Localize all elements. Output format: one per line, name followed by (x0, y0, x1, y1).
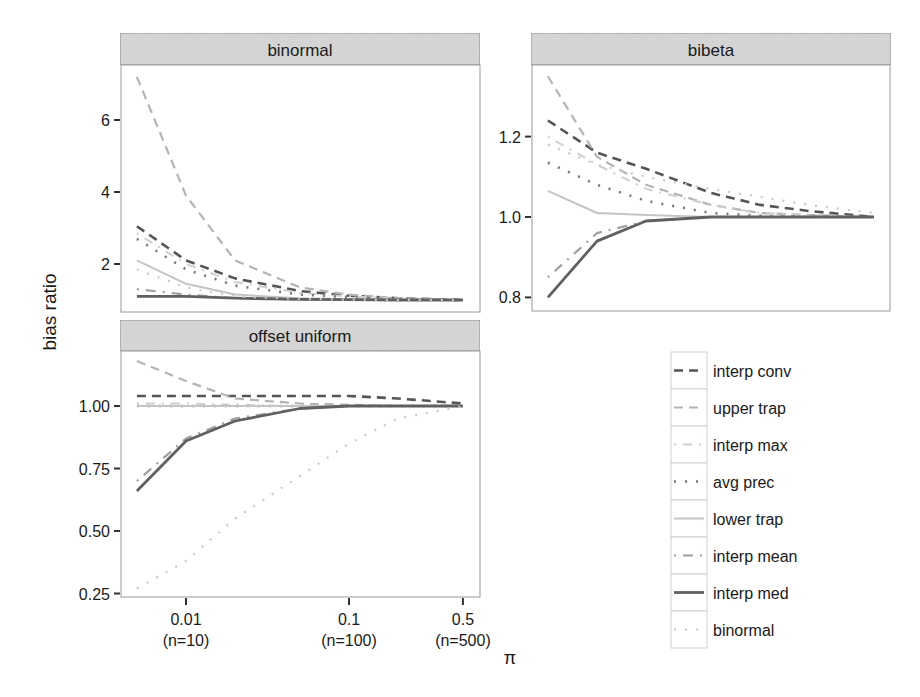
y-tick-label: 6 (101, 112, 110, 129)
x-tick-sublabel: (n=10) (163, 632, 210, 649)
y-tick-label: 0.75 (79, 461, 110, 478)
legend-label: interp max (713, 437, 788, 454)
legend-item-avg-prec: avg prec (671, 463, 774, 500)
y-axis-title: bias ratio (39, 273, 60, 350)
legend-key-box (671, 611, 707, 648)
legend-item-interp-max: interp max (671, 426, 788, 463)
y-axis-bibeta: 0.81.01.2 (499, 129, 531, 307)
y-tick-label: 0.25 (79, 586, 110, 603)
plot-area-binormal (121, 65, 480, 312)
legend-label: binormal (713, 622, 774, 639)
legend-label: interp mean (713, 548, 798, 565)
legend-item-interp-med: interp med (671, 574, 789, 611)
legend: interp convupper trapinterp maxavg precl… (671, 352, 798, 648)
panel-bibeta: bibeta 0.81.01.2 (499, 33, 891, 311)
panel-offset-uniform: offset uniform 0.250.500.751.00 (79, 320, 480, 603)
plot-area-offset-uniform (121, 351, 480, 597)
panel-binormal: binormal 246 (101, 33, 480, 312)
legend-item-upper-trap: upper trap (671, 389, 786, 426)
strip-title-offset-uniform: offset uniform (249, 327, 352, 346)
legend-item-binormal: binormal (671, 611, 774, 648)
y-tick-label: 0.50 (79, 523, 110, 540)
legend-item-lower-trap: lower trap (671, 500, 783, 537)
plot-area-bibeta (532, 65, 890, 311)
strip-title-bibeta: bibeta (688, 41, 735, 60)
legend-label: interp med (713, 585, 789, 602)
x-tick-label: 0.1 (338, 611, 360, 628)
x-tick-label: 0.5 (452, 611, 474, 628)
x-axis: 0.01(n=10)0.1(n=100)0.5(n=500) (163, 598, 491, 649)
legend-label: interp conv (713, 363, 791, 380)
y-axis-binormal: 246 (101, 112, 120, 273)
faceted-line-chart: binormal 246 bibeta 0.81.01.2 offset uni… (0, 0, 920, 697)
y-tick-label: 0.8 (499, 289, 521, 306)
legend-item-interp-conv: interp conv (671, 352, 791, 389)
x-axis-title: π (504, 648, 516, 668)
y-tick-label: 1.2 (499, 129, 521, 146)
y-tick-label: 4 (101, 184, 110, 201)
legend-item-interp-mean: interp mean (671, 537, 798, 574)
strip-title-binormal: binormal (267, 41, 332, 60)
legend-label: upper trap (713, 400, 786, 417)
legend-label: lower trap (713, 511, 783, 528)
legend-label: avg prec (713, 474, 774, 491)
x-tick-sublabel: (n=100) (321, 632, 377, 649)
legend-key-box (671, 463, 707, 500)
x-tick-sublabel: (n=500) (435, 632, 491, 649)
x-tick-label: 0.01 (170, 611, 201, 628)
y-axis-offset-uniform: 0.250.500.751.00 (79, 398, 120, 603)
y-tick-label: 1.0 (499, 209, 521, 226)
y-tick-label: 1.00 (79, 398, 110, 415)
y-tick-label: 2 (101, 256, 110, 273)
